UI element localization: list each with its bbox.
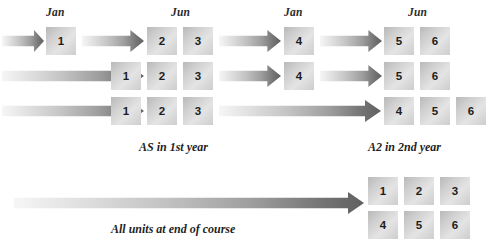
unit-number: 4 <box>368 211 398 239</box>
unit-number: 6 <box>440 211 470 239</box>
unit-box: 5 <box>404 211 434 239</box>
unit-box: 6 <box>440 211 470 239</box>
unit-box: 3 <box>440 177 470 205</box>
unit-number: 2 <box>404 177 434 205</box>
unit-box: 1 <box>368 177 398 205</box>
summary-arrow <box>14 192 364 214</box>
unit-box: 2 <box>404 177 434 205</box>
unit-number: 3 <box>440 177 470 205</box>
unit-number: 1 <box>368 177 398 205</box>
unit-box: 4 <box>368 211 398 239</box>
unit-number: 5 <box>404 211 434 239</box>
